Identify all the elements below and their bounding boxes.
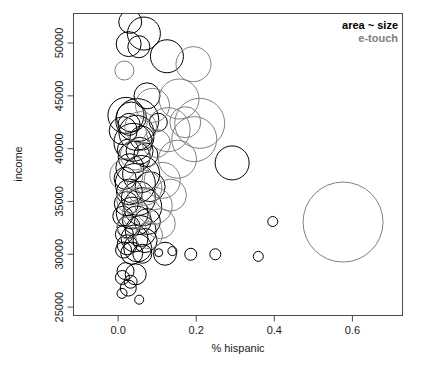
y-tick-label: 40000	[53, 133, 65, 164]
legend: area ~ size e-touch	[342, 19, 398, 44]
legend-entry-e-touch: e-touch	[358, 32, 398, 44]
bubble-point	[150, 40, 183, 73]
bubble-point	[124, 275, 137, 288]
bubbles-layer	[108, 10, 383, 304]
bubble-point	[253, 251, 263, 261]
bubble-point	[303, 182, 383, 262]
bubble-point	[168, 247, 177, 256]
y-axis-ticks: 250003000035000400004500050000	[53, 28, 74, 323]
bubble-point	[215, 146, 249, 180]
x-tick-label: 0.4	[267, 324, 282, 336]
y-tick-label: 30000	[53, 239, 65, 270]
x-axis-ticks: 0.00.20.40.6	[110, 316, 360, 337]
bubble-point	[268, 217, 278, 227]
bubble-point	[185, 248, 197, 260]
x-tick-label: 0.6	[345, 324, 360, 336]
x-tick-label: 0.2	[189, 324, 204, 336]
bubble-point	[124, 234, 152, 262]
bubble-point	[128, 36, 150, 58]
y-tick-label: 45000	[53, 81, 65, 112]
bubble-point	[172, 117, 217, 162]
bubble-point	[154, 179, 186, 211]
bubble-point	[210, 249, 221, 260]
y-tick-label: 50000	[53, 28, 65, 59]
bubble-point	[115, 61, 134, 80]
bubble-point	[135, 295, 144, 304]
x-axis-title: % hispanic	[211, 342, 265, 354]
bubble-point	[130, 126, 154, 150]
y-tick-label: 25000	[53, 292, 65, 323]
series-area-size	[108, 10, 278, 304]
bubble-chart-figure: 250003000035000400004500050000 0.00.20.4…	[0, 0, 423, 389]
legend-entry-area-size: area ~ size	[342, 19, 398, 31]
x-tick-label: 0.0	[110, 324, 125, 336]
bubble-point	[155, 249, 163, 257]
y-tick-label: 35000	[53, 186, 65, 217]
bubble-point	[144, 162, 180, 198]
plot-canvas: 250003000035000400004500050000 0.00.20.4…	[0, 0, 423, 389]
y-axis-title: income	[12, 146, 24, 181]
bubble-point	[122, 200, 150, 228]
bubble-point	[158, 140, 196, 178]
